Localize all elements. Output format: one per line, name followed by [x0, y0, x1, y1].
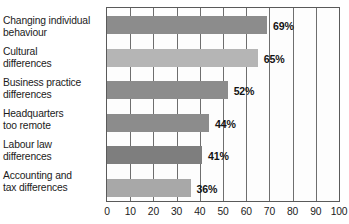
gridline-20 — [153, 8, 154, 201]
category-label-accounting-and-tax-differences: Accounting and tax differences — [3, 170, 104, 194]
bar-value-label-1: 65% — [264, 53, 285, 65]
horizontal-bar-chart: Changing individual behaviour Cultural d… — [0, 0, 349, 224]
category-label-changing-individual-behaviour: Changing individual behaviour — [3, 15, 104, 39]
bar-0 — [107, 16, 267, 34]
x-tick-label-90: 90 — [310, 206, 321, 217]
x-tick-label-0: 0 — [104, 206, 110, 217]
category-label-headquarters-too-remote: Headquarters too remote — [3, 108, 104, 132]
bar-3 — [107, 114, 209, 132]
bar-value-label-3: 44% — [215, 118, 236, 130]
x-tick-label-50: 50 — [217, 206, 228, 217]
gridline-10 — [130, 8, 131, 201]
gridline-80 — [293, 8, 294, 201]
x-tick-label-30: 30 — [171, 206, 182, 217]
gridline-70 — [269, 8, 270, 201]
bar-4 — [107, 146, 202, 164]
x-tick-label-20: 20 — [148, 206, 159, 217]
bar-value-label-2: 52% — [234, 85, 255, 97]
x-tick-label-80: 80 — [287, 206, 298, 217]
x-tick-label-100: 100 — [331, 206, 348, 217]
bar-1 — [107, 49, 258, 67]
x-tick-label-60: 60 — [241, 206, 252, 217]
bar-value-label-0: 69% — [273, 20, 294, 32]
bar-5 — [107, 179, 191, 197]
gridline-90 — [316, 8, 317, 201]
gridline-60 — [246, 8, 247, 201]
category-label-cultural-differences: Cultural differences — [3, 46, 104, 70]
bar-value-label-5: 36% — [197, 183, 218, 195]
plot-area: 69%65%52%44%41%36% — [106, 7, 340, 202]
gridline-30 — [177, 8, 178, 201]
gridline-40 — [200, 8, 201, 201]
x-tick-label-10: 10 — [125, 206, 136, 217]
gridline-50 — [223, 8, 224, 201]
category-label-labour-law-differences: Labour law differences — [3, 139, 104, 163]
category-label-business-practice-differences: Business practice differences — [3, 77, 104, 101]
x-axis: 0102030405060708090100 — [106, 203, 340, 223]
bar-2 — [107, 81, 228, 99]
category-label-column: Changing individual behaviour Cultural d… — [0, 7, 104, 202]
bar-value-label-4: 41% — [208, 150, 229, 162]
x-tick-label-40: 40 — [194, 206, 205, 217]
x-tick-label-70: 70 — [264, 206, 275, 217]
